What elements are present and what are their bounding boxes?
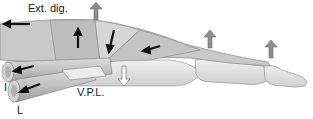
extensor-tendon — [0, 20, 270, 67]
label-interosseous: I — [4, 81, 7, 93]
arrow-up-icon — [90, 2, 102, 20]
label-extensor-digitorum: Ext. dig. — [28, 2, 68, 14]
label-lumbrical: L — [17, 104, 23, 116]
sagittal-band — [50, 20, 100, 62]
label-volar-plate: V.P.L. — [77, 86, 105, 98]
arrow-up-icon — [265, 40, 277, 58]
distal-phalanx — [264, 66, 307, 88]
arrow-up-icon — [204, 30, 216, 48]
extensor-mechanism-diagram: Ext. dig. I L V.P.L. — [0, 0, 313, 119]
